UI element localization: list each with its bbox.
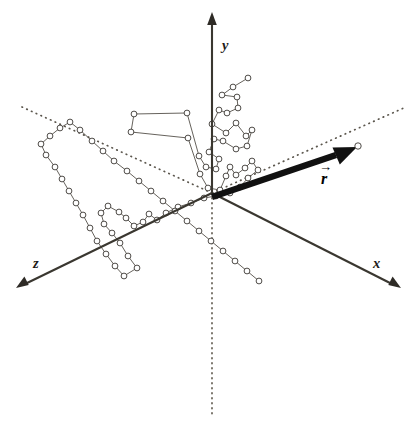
chain-node [87,225,93,231]
r-vector-arrow-accent: → [319,159,332,174]
chain-node [232,258,238,264]
chain-node [67,119,73,125]
chain-node-set [38,75,262,284]
chain-node [255,167,261,173]
chain-node [105,203,111,209]
chain-node [103,251,109,257]
chain-node [245,75,251,81]
chain-node [224,110,230,116]
chain-node [184,218,190,224]
z-axis-arrowhead [16,277,29,288]
z-axis-label: z [32,255,39,271]
chain-node [111,158,117,164]
chain-node [124,168,130,174]
chain-node [244,143,250,149]
figure-canvas: y x z r → [0,0,418,424]
y-axis-label: y [220,37,229,53]
polymer-chain-group [38,75,262,284]
chain-node [160,198,166,204]
chain-node [219,92,225,98]
y-axis-arrowhead [207,12,217,25]
chain-link [187,113,199,156]
chain-node [185,135,191,141]
chain-node [109,230,115,236]
x-axis-line [212,193,392,284]
chain-node [43,152,49,158]
chain-node [112,263,118,269]
chain-node [230,84,236,90]
chain-node [233,146,239,152]
chain-node [73,200,79,206]
chain-end-node [355,143,361,149]
vector-label-group: r → [319,159,332,187]
chain-node [244,268,250,274]
chain-node [125,253,131,259]
chain-node [216,156,222,162]
chain-node [94,238,100,244]
chain-node [227,164,233,170]
chain-node [148,188,154,194]
chain-node [196,228,202,234]
chain-node [134,265,140,271]
chain-node [128,129,134,135]
chain-node [66,188,72,194]
chain-node [208,238,214,244]
chain-node [116,209,122,215]
chain-node [220,248,226,254]
chain-node [101,221,107,227]
chain-node [184,110,190,116]
chain-node [80,212,86,218]
chain-node [220,138,226,144]
chain-node [249,158,255,164]
chain-node [89,138,95,144]
chain-link [131,132,188,138]
chain-node [123,215,129,221]
negative-x-dotted-guide [212,107,406,193]
chain-node [233,120,239,126]
chain-node [77,127,83,133]
r-vector-arrowhead [333,147,358,165]
chain-node [121,273,127,279]
chain-node [196,153,202,159]
negative-z-dotted-guide [22,107,212,193]
random-walk-diagram: y x z r → [0,0,418,424]
chain-node [223,130,229,136]
chain-node [131,111,137,117]
chain-node [100,148,106,154]
chain-link [134,113,187,114]
chain-node [203,164,209,170]
chain-node [242,165,248,171]
x-axis-arrowhead [388,277,401,288]
chain-node [146,211,152,217]
chain-node [245,175,251,181]
chain-node [213,166,219,172]
chain-node [136,178,142,184]
chain-node [249,127,255,133]
chain-node [59,176,65,182]
chain-node [98,210,104,216]
chain-node [234,94,240,100]
axis-labels-group: y x z [32,37,380,271]
x-axis-label: x [372,255,380,271]
chain-node [235,105,241,111]
chain-node [256,278,262,284]
chain-node [197,171,203,177]
chain-node [233,172,239,178]
chain-node [223,173,229,179]
chain-node [243,133,249,139]
chain-node [47,133,53,139]
chain-node [52,164,58,170]
chain-node [57,125,63,131]
chain-node [216,107,222,113]
chain-node [117,240,123,246]
chain-node [140,219,146,225]
chain-node [205,185,211,191]
r-vector-shaft [212,155,336,197]
chain-node [131,223,137,229]
chain-node [38,141,44,147]
